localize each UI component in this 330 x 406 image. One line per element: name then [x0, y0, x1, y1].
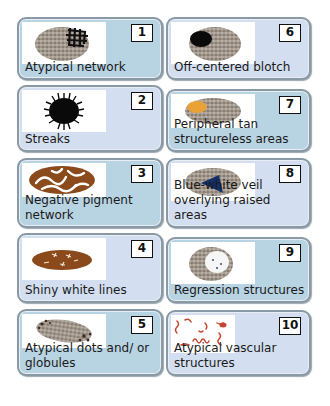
card-label: Peripheral tan structureless areas	[174, 117, 305, 147]
card-number: 4	[131, 240, 153, 258]
card-label: Atypical vascular structures	[174, 341, 305, 371]
regression-icon	[171, 242, 255, 284]
card-label: Negative pigment network	[25, 193, 157, 223]
card-number: 2	[131, 92, 153, 110]
card-off-centered-blotch: 6 Off-centered blotch	[166, 17, 311, 80]
card-number: 9	[279, 244, 301, 262]
card-blue-white-veil: 8 Blue-white veil overlying raised areas	[166, 158, 311, 228]
card-number: 6	[279, 24, 301, 42]
card-regression-structures: 9 Regression structures	[166, 237, 311, 303]
card-shiny-white-lines: 4 Shiny white lines	[17, 233, 163, 303]
card-label: Regression structures	[174, 283, 305, 298]
card-peripheral-tan-areas: 7 Peripheral tan structureless areas	[166, 89, 311, 152]
card-label: Atypical dots and/ or globules	[25, 341, 157, 371]
card-atypical-network: 1 Atypical network	[17, 17, 163, 80]
card-number: 3	[131, 165, 153, 183]
card-atypical-vascular: 10 Atypical vascular structures	[166, 310, 311, 376]
atypical-network-icon	[22, 22, 106, 64]
blotch-icon	[171, 22, 255, 64]
card-label: Streaks	[25, 132, 157, 147]
card-atypical-dots-globules: 5 Atypical dots and/ or globules	[17, 309, 163, 376]
card-label: Blue-white veil overlying raised areas	[174, 178, 305, 223]
card-negative-pigment-network: 3 Negative pigment network	[17, 158, 163, 228]
card-label: Atypical network	[25, 60, 157, 75]
shiny-white-lines-icon	[22, 238, 106, 280]
card-number: 5	[131, 316, 153, 334]
card-number: 10	[279, 317, 301, 335]
streaks-icon	[22, 90, 106, 132]
card-number: 7	[279, 96, 301, 114]
card-streaks: 2 Streaks	[17, 85, 163, 152]
card-label: Shiny white lines	[25, 283, 157, 298]
negative-network-icon	[22, 163, 106, 197]
card-label: Off-centered blotch	[174, 60, 305, 75]
card-number: 1	[131, 24, 153, 42]
